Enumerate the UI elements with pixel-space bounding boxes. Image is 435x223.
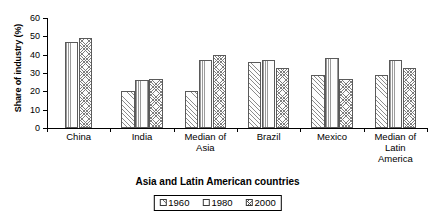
bar-group (248, 18, 290, 128)
category-label: Mexico (300, 131, 363, 142)
y-axis-tick (43, 91, 47, 92)
bar (311, 75, 325, 128)
category-label-line: China (47, 131, 110, 142)
bar (248, 62, 262, 128)
bar-chart-figure: Share of industry (%) 0102030405060 Chin… (0, 0, 435, 223)
y-axis-tick (43, 110, 47, 111)
y-axis-tick-label: 50 (7, 31, 40, 41)
bar (149, 79, 163, 129)
category-label: China (47, 131, 110, 142)
category-label: Median ofAsia (174, 131, 237, 153)
category-label-line: Asia (174, 142, 237, 153)
y-axis-tick-label: 10 (7, 105, 40, 115)
legend-swatch-icon (159, 199, 166, 206)
y-axis-tick-label: 60 (7, 13, 40, 23)
legend-swatch-icon (202, 199, 209, 206)
legend-item[interactable]: 1980 (202, 197, 232, 208)
bar (79, 38, 93, 128)
bar (135, 80, 149, 128)
category-label-line: Mexico (300, 131, 363, 142)
bar (403, 68, 417, 129)
category-label-line: Median of (364, 131, 427, 142)
bar (185, 91, 199, 128)
y-axis-tick (43, 18, 47, 19)
bar (276, 68, 290, 129)
plot-area: 0102030405060 (47, 18, 427, 128)
category-label-line: Latin (364, 142, 427, 153)
bar (213, 55, 227, 128)
bar (325, 58, 339, 128)
y-axis-tick (43, 36, 47, 37)
category-label: Brazil (237, 131, 300, 142)
y-axis-tick-label: 0 (7, 123, 40, 133)
category-label-line: America (364, 153, 427, 164)
x-axis-title: Asia and Latin American countries (0, 176, 435, 187)
category-label: Median ofLatinAmerica (364, 131, 427, 164)
legend-label: 1960 (168, 197, 189, 208)
bar-group (65, 18, 93, 128)
bar-group (185, 18, 227, 128)
bar (65, 42, 79, 128)
category-label-line: Median of (174, 131, 237, 142)
legend-item[interactable]: 1960 (159, 197, 189, 208)
y-axis-tick-label: 40 (7, 50, 40, 60)
y-axis-tick-label: 30 (7, 68, 40, 78)
y-axis-tick (43, 73, 47, 74)
legend-item[interactable]: 2000 (246, 197, 276, 208)
bar (389, 60, 403, 128)
category-label-line: Brazil (237, 131, 300, 142)
bar (262, 60, 276, 128)
legend-label: 1980 (211, 197, 232, 208)
legend-label: 2000 (255, 197, 276, 208)
bar (121, 91, 135, 128)
bar (199, 60, 213, 128)
bar (375, 75, 389, 128)
y-axis-tick-label: 20 (7, 86, 40, 96)
bar (339, 79, 353, 129)
bar-group (121, 18, 163, 128)
category-label-line: India (110, 131, 173, 142)
legend-swatch-icon (246, 199, 253, 206)
y-axis-line (47, 18, 48, 128)
bar-group (375, 18, 417, 128)
x-axis-tick (427, 128, 428, 132)
y-axis-tick (43, 55, 47, 56)
bar-group (311, 18, 353, 128)
category-label: India (110, 131, 173, 142)
chart-legend: 196019802000 (153, 195, 281, 211)
